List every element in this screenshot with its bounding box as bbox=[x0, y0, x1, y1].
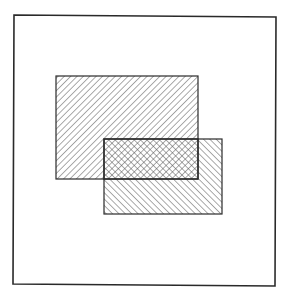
set-b-hatch bbox=[104, 139, 222, 214]
set-b bbox=[104, 139, 222, 214]
venn-diagram bbox=[0, 0, 289, 300]
